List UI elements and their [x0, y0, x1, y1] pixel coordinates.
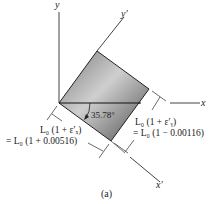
y-prime-axis	[97, 17, 124, 51]
x-axis-label: x	[201, 98, 205, 108]
x-prime-axis-dash	[111, 141, 125, 153]
dimension-y-line2: = L₀ (1 − 0.00116)	[133, 128, 204, 138]
dim-arrow-y2	[125, 140, 134, 152]
y-axis-label: y	[55, 0, 59, 10]
dim-arrow-y1	[152, 97, 160, 110]
y-prime-axis-label: y′	[121, 9, 128, 19]
angle-label: 35.78°	[91, 110, 115, 120]
dim-arrow-x2	[88, 143, 103, 151]
figure-caption: (a)	[101, 189, 112, 199]
strain-diagram	[0, 0, 213, 204]
x-prime-axis-label: x′	[156, 180, 163, 190]
dimension-x-line2: = L₀ (1 + 0.00516)	[6, 136, 77, 146]
dim-ext-y2	[114, 143, 128, 153]
dim-ext-y1	[152, 91, 166, 101]
dim-ext-x2	[99, 144, 109, 158]
dim-ext-x1	[47, 106, 57, 120]
dimension-y-line1: L₀ (1 + ε′ᵧ)	[135, 117, 176, 127]
dim-arrow-x1	[52, 114, 62, 121]
dimension-x-line1: L₀ (1 + ε′ₓ)	[40, 125, 82, 135]
